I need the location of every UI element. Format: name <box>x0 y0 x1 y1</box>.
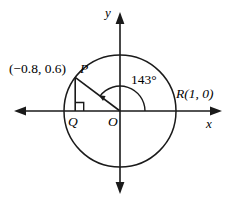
trigonometry-unit-circle-figure: (−0.8, 0.6) P R(1, 0) 143° Q O x y <box>0 0 229 205</box>
point-p-label: P <box>80 62 88 76</box>
angle-arc-143 <box>100 86 145 111</box>
x-axis-left-arrowhead <box>14 107 26 116</box>
x-axis-label: x <box>206 117 212 130</box>
angle-measure-label: 143° <box>131 73 157 87</box>
right-angle-marker-at-q <box>75 103 84 112</box>
origin-label: O <box>108 115 118 129</box>
figure-canvas <box>0 0 229 205</box>
x-axis-right-arrowhead <box>210 107 222 116</box>
segment-op-terminal-ray <box>75 77 120 111</box>
y-axis-bottom-arrowhead <box>116 182 125 194</box>
point-p-coordinate-label: (−0.8, 0.6) <box>9 62 66 76</box>
point-q-label: Q <box>68 115 78 129</box>
y-axis-top-arrowhead <box>116 12 125 24</box>
point-r-label: R(1, 0) <box>176 87 214 101</box>
y-axis-label: y <box>105 6 111 19</box>
